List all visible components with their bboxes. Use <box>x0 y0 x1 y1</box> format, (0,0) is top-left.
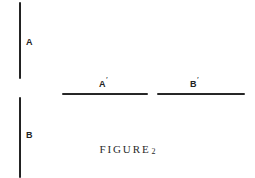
prime-mark-icon: ′ <box>106 75 108 85</box>
figure-canvas: A B A′ B′ FIGURE2 <box>0 0 255 178</box>
figure-caption-number: 2 <box>152 147 156 156</box>
line-segment-a <box>19 2 21 79</box>
label-a-prime: A′ <box>99 80 108 89</box>
label-a: A <box>26 38 33 47</box>
label-a-prime-base: A <box>99 79 106 89</box>
line-segment-b-prime <box>157 93 245 95</box>
label-b-prime-base: B <box>190 79 197 89</box>
prime-mark-icon: ′ <box>197 75 199 85</box>
figure-caption-word: FIGURE <box>99 143 150 155</box>
line-segment-b <box>19 97 21 178</box>
label-b: B <box>26 131 33 140</box>
label-b-prime: B′ <box>190 80 199 89</box>
figure-caption: FIGURE2 <box>0 143 255 155</box>
line-segment-a-prime <box>62 93 148 95</box>
